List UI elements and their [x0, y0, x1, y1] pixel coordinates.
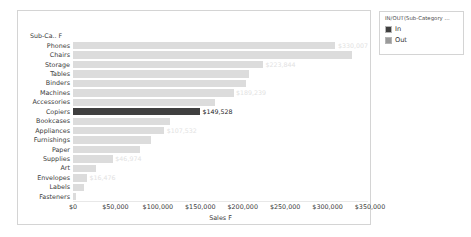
- bar-category-label[interactable]: Furnishings: [18, 136, 70, 144]
- bar-row[interactable]: Storage$223,844: [18, 60, 370, 69]
- bar-row[interactable]: Furnishings: [18, 135, 370, 144]
- legend-swatch-out: [385, 37, 392, 44]
- bar-category-label[interactable]: Labels: [18, 183, 70, 191]
- bar-out[interactable]: [73, 136, 151, 143]
- legend-label-out: Out: [395, 37, 407, 44]
- bar-row[interactable]: Envelopes$16,476: [18, 173, 370, 182]
- bar-row[interactable]: Accessories: [18, 98, 370, 107]
- bar-value-label: $189,239: [236, 89, 266, 96]
- bar-track: [73, 135, 368, 144]
- bar-out[interactable]: [73, 193, 76, 200]
- bar-category-label[interactable]: Phones: [18, 42, 70, 50]
- bar-category-label[interactable]: Machines: [18, 89, 70, 97]
- bar-category-label[interactable]: Binders: [18, 79, 70, 87]
- legend-item-in[interactable]: In: [385, 26, 401, 33]
- bar-track: [73, 50, 368, 59]
- legend-label-in: In: [395, 26, 401, 33]
- bar-value-label: $330,007: [338, 42, 368, 49]
- bar-row[interactable]: Binders: [18, 79, 370, 88]
- x-axis-tick-label: $0: [69, 203, 77, 211]
- bar-value-label: $149,528: [202, 108, 232, 115]
- bar-category-label[interactable]: Tables: [18, 70, 70, 78]
- x-axis-tick-label: $100,000: [143, 203, 174, 211]
- bar-row[interactable]: Copiers$149,528: [18, 107, 370, 116]
- bar-track: [73, 145, 368, 154]
- bar-out[interactable]: [73, 51, 352, 58]
- bar-out[interactable]: [73, 184, 84, 191]
- bar-track: [73, 79, 368, 88]
- bar-in[interactable]: [73, 108, 200, 115]
- visualization-root: Sub-Ca.. F Phones$330,007ChairsStorage$2…: [0, 0, 471, 237]
- bar-category-label[interactable]: Chairs: [18, 51, 70, 59]
- legend-title: IN/OUT(Sub-Category ...: [385, 15, 450, 21]
- x-axis-tick-label: $250,000: [270, 203, 301, 211]
- bar-value-label: $107,532: [167, 127, 197, 134]
- x-axis-tick-label: $300,000: [312, 203, 343, 211]
- bar-value-label: $16,476: [89, 174, 115, 181]
- plot-area[interactable]: Sub-Ca.. F Phones$330,007ChairsStorage$2…: [18, 11, 370, 224]
- bar-row[interactable]: Tables: [18, 69, 370, 78]
- bar-out[interactable]: [73, 99, 215, 106]
- bar-track: [73, 98, 368, 107]
- bar-track: [73, 164, 368, 173]
- legend-item-out[interactable]: Out: [385, 37, 407, 44]
- bar-track: [73, 117, 368, 126]
- bar-out[interactable]: [73, 165, 96, 172]
- bar-track: $189,239: [73, 88, 368, 97]
- bar-rows: Phones$330,007ChairsStorage$223,844Table…: [18, 41, 370, 201]
- bar-track: $107,532: [73, 126, 368, 135]
- bar-row[interactable]: Chairs: [18, 50, 370, 59]
- x-axis-title[interactable]: Sales F: [73, 214, 368, 222]
- bar-category-label[interactable]: Accessories: [18, 98, 70, 106]
- x-axis-tick-label: $350,000: [355, 203, 386, 211]
- bar-row[interactable]: Machines$189,239: [18, 88, 370, 97]
- bar-row[interactable]: Bookcases: [18, 117, 370, 126]
- bar-category-label[interactable]: Appliances: [18, 127, 70, 135]
- bar-row[interactable]: Art: [18, 164, 370, 173]
- bar-track: $330,007: [73, 41, 368, 50]
- bar-out[interactable]: [73, 155, 113, 162]
- bar-row[interactable]: Paper: [18, 145, 370, 154]
- bar-value-label: $223,844: [265, 61, 295, 68]
- bar-row[interactable]: Phones$330,007: [18, 41, 370, 50]
- x-axis-tick-label: $200,000: [227, 203, 258, 211]
- x-axis-tick-label: $50,000: [102, 203, 128, 211]
- bar-out[interactable]: [73, 80, 246, 87]
- bar-out[interactable]: [73, 89, 234, 96]
- bar-category-label[interactable]: Storage: [18, 61, 70, 69]
- bar-value-label: $46,974: [115, 155, 141, 162]
- bar-out[interactable]: [73, 118, 170, 125]
- y-axis-field-header[interactable]: Sub-Ca.. F: [30, 32, 62, 39]
- x-axis: Sales F $0$50,000$100,000$150,000$200,00…: [73, 203, 368, 227]
- bar-category-label[interactable]: Fasteners: [18, 193, 70, 201]
- bar-track: [73, 69, 368, 78]
- bar-out[interactable]: [73, 61, 263, 68]
- bar-track: $223,844: [73, 60, 368, 69]
- bar-track: [73, 183, 368, 192]
- bar-out[interactable]: [73, 127, 164, 134]
- bar-category-label[interactable]: Copiers: [18, 108, 70, 116]
- chart-panel: Sub-Ca.. F Phones$330,007ChairsStorage$2…: [17, 10, 371, 225]
- axis-baseline: [73, 201, 368, 202]
- bar-row[interactable]: Appliances$107,532: [18, 126, 370, 135]
- bar-category-label[interactable]: Art: [18, 164, 70, 172]
- legend-panel: IN/OUT(Sub-Category ... In Out: [379, 11, 464, 55]
- bar-row[interactable]: Labels: [18, 183, 370, 192]
- bar-out[interactable]: [73, 70, 249, 77]
- bar-out[interactable]: [73, 174, 87, 181]
- bar-track: $16,476: [73, 173, 368, 182]
- bar-out[interactable]: [73, 146, 140, 153]
- x-axis-tick-label: $150,000: [185, 203, 216, 211]
- bar-track: $149,528: [73, 107, 368, 116]
- bar-category-label[interactable]: Envelopes: [18, 174, 70, 182]
- bar-row[interactable]: Supplies$46,974: [18, 154, 370, 163]
- bar-track: $46,974: [73, 154, 368, 163]
- bar-out[interactable]: [73, 42, 335, 49]
- legend-swatch-in: [385, 26, 392, 33]
- bar-category-label[interactable]: Supplies: [18, 155, 70, 163]
- bar-category-label[interactable]: Paper: [18, 146, 70, 154]
- bar-category-label[interactable]: Bookcases: [18, 117, 70, 125]
